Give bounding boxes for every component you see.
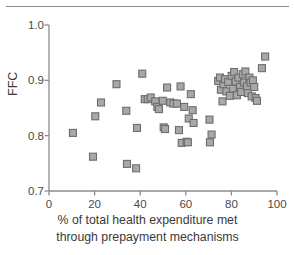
data-point [253,97,260,104]
data-point [262,53,269,60]
data-point [155,106,162,113]
x-axis-label-line-1: % of total health expenditure met [0,212,295,229]
x-axis-label-line-2: through prepayment mechanisms [0,229,295,246]
x-tick-label: 60 [179,198,192,210]
data-point [173,100,180,107]
data-point [123,107,130,114]
figure: 0.70.80.91.0 020406080100 FFC % of total… [0,0,295,255]
data-point [206,116,213,123]
x-axis-label: % of total health expenditure met throug… [0,212,295,246]
data-point [187,91,194,98]
data-point [90,153,97,160]
data-point [113,81,120,88]
x-tick-label: 40 [134,198,147,210]
data-point [139,70,146,77]
data-point [175,127,182,134]
data-point [206,139,213,146]
y-axis-label: FFC [6,72,20,96]
x-tick-label: 80 [225,198,238,210]
data-point [159,97,166,104]
y-tick-label: 0.7 [14,185,44,197]
x-tick-label: 0 [46,198,52,210]
y-tick-label: 1.0 [14,19,44,31]
data-point [189,107,196,114]
data-point [164,84,171,91]
data-points [69,53,268,172]
data-point [219,98,226,105]
data-point [251,83,258,90]
data-point [134,124,141,131]
data-point [249,77,256,84]
data-point [133,165,140,172]
data-point [97,99,104,106]
data-point [92,113,99,120]
axes [49,25,277,191]
data-point [123,160,130,167]
data-point [177,83,184,90]
data-point [184,139,191,146]
data-point [181,103,188,110]
data-point [258,65,265,72]
data-point [229,85,236,92]
x-tick-label: 20 [88,198,101,210]
data-point [208,131,215,138]
x-tick-label: 100 [267,198,286,210]
data-point [162,126,169,133]
data-point [190,119,197,126]
data-point [226,92,233,99]
y-tick-label: 0.8 [14,130,44,142]
data-point [69,129,76,136]
